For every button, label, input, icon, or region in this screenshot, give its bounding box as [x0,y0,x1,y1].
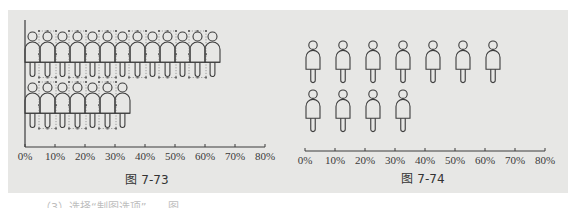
person-icon [306,90,320,132]
person-icon [336,41,350,83]
figure-caption: 图 7-74 [401,169,444,186]
x-tick-label: 0% [298,154,313,166]
person-icon [456,41,470,83]
x-tick-label: 70% [505,154,525,166]
person-icon [366,41,380,83]
x-tick-label: 60% [475,154,495,166]
person-icon [336,90,350,132]
pictogram-chart-7-74: 0%10%20%30%40%50%60%70%80% 图 7-74 [0,0,572,190]
x-tick-label: 80% [535,154,555,166]
person-icon [396,41,410,83]
x-tick-label: 10% [325,154,345,166]
x-tick-label: 40% [415,154,435,166]
person-icon [486,41,500,83]
x-tick-label: 50% [445,154,465,166]
body-text-fragment: （3）选择“制图选项”……图 [40,198,179,208]
person-icon [366,90,380,132]
x-tick-label: 20% [355,154,375,166]
x-tick-label: 30% [385,154,405,166]
person-icon [426,41,440,83]
person-icon [396,90,410,132]
person-icon [306,41,320,83]
